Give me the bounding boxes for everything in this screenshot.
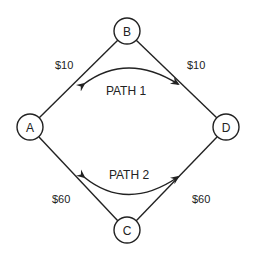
path-1-arrow [84,68,178,84]
edge-b-d [136,40,217,118]
node-c: C [114,217,140,243]
node-a-label: A [26,121,34,135]
edge-a-c [39,137,118,221]
cost-a-b: $10 [55,59,73,71]
node-d: D [213,114,239,140]
cost-a-c: $60 [52,193,70,205]
path-2-label: PATH 2 [109,168,150,182]
node-b-label: B [123,25,131,39]
edge-a-b [39,40,118,118]
network-diagram: B A D C $10 $10 $60 $60 PATH 1 PATH 2 [0,0,253,260]
node-b: B [114,18,140,44]
node-c-label: C [123,224,132,238]
node-a: A [17,114,43,140]
node-d-label: D [222,121,231,135]
cost-c-d: $60 [192,193,210,205]
path-1-label: PATH 1 [106,84,147,98]
cost-b-d: $10 [187,59,205,71]
